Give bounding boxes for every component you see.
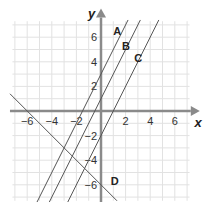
x-tick-label: −4: [46, 115, 59, 127]
x-tick-label: 2: [123, 115, 129, 127]
x-tick-label: −6: [21, 115, 34, 127]
line-label-c: C: [134, 52, 142, 64]
x-tick-label: 4: [147, 115, 153, 127]
y-axis-label: y: [87, 6, 96, 21]
coordinate-plane: x y −6−4−2246642−2−4−6 ABCD: [0, 0, 216, 207]
line-label-d: D: [111, 175, 119, 187]
y-tick-label: 4: [91, 56, 97, 68]
x-tick-label: −2: [70, 115, 83, 127]
line-label-a: A: [113, 25, 121, 37]
x-tick-label: 6: [172, 115, 178, 127]
y-tick-label: −2: [84, 130, 97, 142]
y-tick-label: 6: [91, 31, 97, 43]
y-tick-label: 2: [91, 80, 97, 92]
x-axis-label: x: [193, 115, 202, 130]
y-tick-label: −6: [84, 179, 97, 191]
y-axis-arrow-icon: [96, 9, 106, 18]
line-label-b: B: [122, 40, 130, 52]
